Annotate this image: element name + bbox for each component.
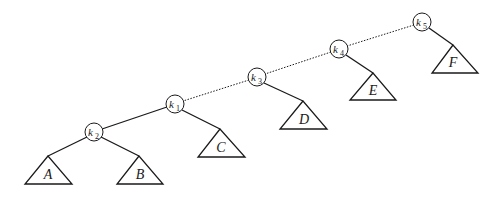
edge-k5-k4 xyxy=(347,25,414,46)
node-k3: k 3 xyxy=(248,68,266,86)
svg-text:1: 1 xyxy=(176,104,180,113)
solid-edges xyxy=(48,28,453,156)
subtree-D: D xyxy=(280,101,327,129)
edge-k3-k1 xyxy=(183,80,249,101)
svg-text:4: 4 xyxy=(340,49,344,58)
edge-k1-C xyxy=(182,110,220,129)
edge-k4-E xyxy=(346,55,373,73)
node-k1: k 1 xyxy=(166,95,184,113)
subtree-F: F xyxy=(432,45,478,73)
subtree-label: A xyxy=(43,167,53,182)
svg-text:3: 3 xyxy=(258,77,262,86)
edge-k1-k2 xyxy=(102,107,167,129)
subtree-label: D xyxy=(298,112,309,127)
edge-k4-k3 xyxy=(265,52,331,74)
svg-text:5: 5 xyxy=(423,22,427,31)
subtree-label: C xyxy=(216,140,226,155)
edge-k5-F xyxy=(429,28,453,45)
subtree-C: C xyxy=(198,129,245,157)
edge-k2-B xyxy=(101,137,139,156)
node-k5: k 5 xyxy=(413,13,431,31)
edge-k3-D xyxy=(264,83,303,101)
node-k4: k 4 xyxy=(330,40,348,58)
svg-text:2: 2 xyxy=(95,132,99,141)
subtree-B: B xyxy=(117,156,163,184)
subtree-E: E xyxy=(350,73,396,100)
tree-diagram: A B C D E F k 5 k 4 k 3 k 1 k xyxy=(0,0,504,197)
subtree-label: E xyxy=(368,83,378,98)
subtree-A: A xyxy=(25,156,72,184)
node-k2: k 2 xyxy=(85,123,103,141)
edge-k2-A xyxy=(48,137,87,156)
subtree-label: B xyxy=(136,167,145,182)
subtree-label: F xyxy=(448,55,458,70)
